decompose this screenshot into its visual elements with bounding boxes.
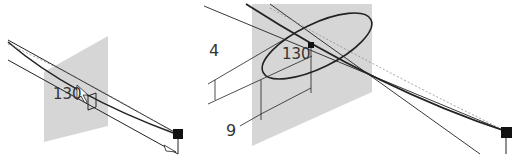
angle-label: 130 [53,85,82,103]
left-view: 130 [8,36,183,154]
right-view: 130 4 9 [204,0,512,154]
endpoint-handle[interactable] [173,129,183,139]
diagram-canvas: 130 130 4 9 [0,0,514,163]
direction-arrow-icon [164,145,176,152]
endpoint-handle[interactable] [501,127,512,138]
height-label: 4 [209,41,219,60]
width-label: 9 [226,121,236,140]
angle-label: 130 [282,45,311,63]
